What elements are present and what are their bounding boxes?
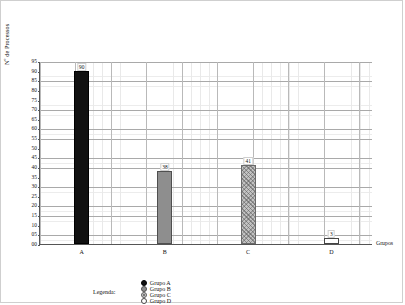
y-tick-mark bbox=[38, 101, 41, 102]
bar-d[interactable]: 3 bbox=[324, 238, 339, 244]
y-tick-mark bbox=[38, 62, 41, 63]
y-tick-mark bbox=[38, 81, 41, 82]
bar-value-label: 90 bbox=[77, 63, 86, 71]
y-tick-mark bbox=[38, 197, 41, 198]
y-tick-mark bbox=[38, 206, 41, 207]
y-tick-label: 90 bbox=[7, 69, 40, 74]
y-tick-mark bbox=[38, 149, 41, 150]
y-tick-label: 40 bbox=[7, 165, 40, 170]
y-tick-label: 05 bbox=[7, 233, 40, 238]
legend-item-label: Grupo D bbox=[150, 298, 171, 304]
y-tick-mark bbox=[38, 120, 41, 121]
bar-value-label: 38 bbox=[160, 163, 169, 171]
y-tick-mark bbox=[38, 129, 41, 130]
y-tick-mark bbox=[38, 178, 41, 179]
y-tick-mark bbox=[38, 139, 41, 140]
x-axis-title: Grupos bbox=[376, 240, 393, 246]
y-tick-label: 25 bbox=[7, 194, 40, 199]
x-tick-label-c: C bbox=[246, 249, 250, 256]
bar-c[interactable]: 41 bbox=[241, 165, 256, 244]
y-axis-title: Nº de Processos bbox=[3, 5, 15, 65]
y-tick-mark bbox=[38, 216, 41, 217]
chart-figure: Nº de Processos 959085807570656055504540… bbox=[0, 0, 403, 303]
y-tick-mark bbox=[38, 158, 41, 159]
y-tick-label: 55 bbox=[7, 136, 40, 141]
y-tick-label: 85 bbox=[7, 79, 40, 84]
outline-white-circle-icon bbox=[141, 298, 147, 304]
y-tick-label: 60 bbox=[7, 127, 40, 132]
y-tick-label: 35 bbox=[7, 175, 40, 180]
y-tick-label: 30 bbox=[7, 185, 40, 190]
x-tick-label-d: D bbox=[329, 249, 333, 256]
y-tick-label: 75 bbox=[7, 98, 40, 103]
bar-a[interactable]: 90 bbox=[74, 71, 89, 244]
y-tick-label: 15 bbox=[7, 213, 40, 218]
y-tick-mark bbox=[38, 235, 41, 236]
y-tick-label: 20 bbox=[7, 204, 40, 209]
y-tick-label: 45 bbox=[7, 156, 40, 161]
bar-value-label: 41 bbox=[243, 157, 252, 165]
chart-legend: Legenda: Grupo AGrupo BGrupo CGrupo D bbox=[93, 280, 197, 304]
minor-gridlines bbox=[40, 62, 372, 244]
y-tick-mark bbox=[38, 72, 41, 73]
y-tick-label: 70 bbox=[7, 107, 40, 112]
x-tick-label-a: A bbox=[79, 249, 83, 256]
legend-item-grupo-d[interactable]: Grupo D bbox=[141, 298, 171, 304]
y-tick-label: 80 bbox=[7, 88, 40, 93]
x-tick-label-b: B bbox=[163, 249, 167, 256]
y-tick-label: 95 bbox=[7, 59, 40, 64]
y-tick-mark bbox=[38, 168, 41, 169]
y-tick-label: 00 bbox=[7, 242, 40, 247]
bar-b[interactable]: 38 bbox=[157, 171, 172, 244]
y-tick-mark bbox=[38, 91, 41, 92]
y-tick-label: 50 bbox=[7, 146, 40, 151]
y-tick-mark bbox=[38, 245, 41, 246]
y-tick-mark bbox=[38, 226, 41, 227]
plot-area: 9590858075706560555045403530252015100500… bbox=[39, 62, 372, 245]
legend-items: Grupo AGrupo BGrupo CGrupo D bbox=[141, 280, 197, 304]
major-gridlines bbox=[40, 62, 372, 244]
y-tick-mark bbox=[38, 110, 41, 111]
bar-value-label: 3 bbox=[328, 230, 335, 238]
y-tick-mark bbox=[38, 187, 41, 188]
legend-title: Legenda: bbox=[93, 289, 115, 295]
y-tick-label: 65 bbox=[7, 117, 40, 122]
y-tick-label: 10 bbox=[7, 223, 40, 228]
